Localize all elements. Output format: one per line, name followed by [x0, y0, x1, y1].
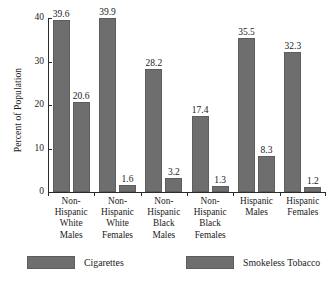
- x-axis-label-line: White: [94, 218, 140, 229]
- x-axis-label-line: Black: [141, 218, 187, 229]
- legend-swatch-icon: [27, 256, 75, 269]
- bar: 28.2: [145, 69, 162, 192]
- y-tick-label: 40: [22, 12, 44, 23]
- x-axis-label-line: Hispanic: [94, 207, 140, 218]
- plot-area: 010203040 39.620.639.91.628.23.217.41.33…: [48, 18, 326, 193]
- x-axis-label-line: Hispanic: [141, 207, 187, 218]
- x-axis-label: HispanicMales: [233, 196, 279, 218]
- bar-value-label: 8.3: [261, 145, 273, 156]
- y-tick-mark: 20: [48, 105, 52, 106]
- x-axis-label-line: Males: [141, 230, 187, 241]
- y-tick-label: 0: [22, 186, 44, 197]
- x-axis-category-labels: Non-HispanicWhiteMalesNon-HispanicWhiteF…: [48, 196, 326, 246]
- bar: 39.6: [53, 20, 70, 192]
- bar: 32.3: [284, 52, 301, 193]
- y-tick-mark: 40: [48, 18, 52, 19]
- x-axis-label-line: Hispanic: [280, 196, 326, 207]
- y-tick-label: 10: [22, 143, 44, 154]
- bar: 35.5: [238, 38, 255, 192]
- x-axis-label-line: Females: [280, 207, 326, 218]
- x-axis-label-line: Black: [187, 218, 233, 229]
- y-tick-label: 30: [22, 56, 44, 67]
- bar-value-label: 39.6: [53, 9, 70, 20]
- x-axis-label-line: Females: [94, 230, 140, 241]
- bar: 20.6: [73, 102, 90, 192]
- bar: 1.6: [119, 185, 136, 192]
- x-axis-label-line: Non-: [187, 196, 233, 207]
- x-axis-label: Non-HispanicBlackMales: [141, 196, 187, 241]
- bar: 1.3: [212, 186, 229, 192]
- y-tick-mark: 10: [48, 149, 52, 150]
- bar-value-label: 17.4: [192, 105, 209, 116]
- x-axis-label: Non-HispanicWhiteMales: [48, 196, 94, 241]
- bar-value-label: 1.3: [214, 175, 226, 186]
- x-axis-label-line: Non-: [94, 196, 140, 207]
- legend-item-smokeless-tobacco: Smokeless Tobacco: [186, 256, 320, 269]
- legend-label-smokeless-tobacco: Smokeless Tobacco: [243, 256, 320, 269]
- bar-value-label: 20.6: [73, 91, 90, 102]
- bar-value-label: 32.3: [285, 41, 302, 52]
- x-axis-label-line: Non-: [141, 196, 187, 207]
- bar: 3.2: [165, 178, 182, 192]
- bar: 1.2: [304, 187, 321, 192]
- legend-swatch-icon: [186, 256, 234, 269]
- bar-value-label: 1.6: [122, 174, 134, 185]
- y-tick-label: 20: [22, 99, 44, 110]
- bar: 39.9: [99, 18, 116, 192]
- x-axis-label-line: Hispanic: [48, 207, 94, 218]
- x-axis-label-line: Males: [48, 230, 94, 241]
- bar-value-label: 28.2: [146, 58, 163, 69]
- chart-legend: Cigarettes Smokeless Tobacco: [0, 256, 331, 278]
- x-axis-label: Non-HispanicBlackFemales: [187, 196, 233, 241]
- x-axis-label-line: Non-: [48, 196, 94, 207]
- bar-chart: Percent of Population 010203040 39.620.6…: [0, 0, 331, 286]
- x-axis-label-line: White: [48, 218, 94, 229]
- x-axis-label-line: Hispanic: [233, 196, 279, 207]
- y-tick-mark: 30: [48, 62, 52, 63]
- bar-value-label: 3.2: [168, 167, 180, 178]
- x-axis-label: Non-HispanicWhiteFemales: [94, 196, 140, 241]
- x-axis-label-line: Females: [187, 230, 233, 241]
- bar: 17.4: [192, 116, 209, 192]
- bar-value-label: 35.5: [238, 27, 255, 38]
- bar-value-label: 39.9: [99, 7, 116, 18]
- bar-value-label: 1.2: [307, 176, 319, 187]
- x-axis-label-line: Males: [233, 207, 279, 218]
- legend-item-cigarettes: Cigarettes: [27, 256, 124, 269]
- legend-label-cigarettes: Cigarettes: [84, 256, 124, 269]
- x-axis-label-line: Hispanic: [187, 207, 233, 218]
- x-axis-label: HispanicFemales: [280, 196, 326, 218]
- bar: 8.3: [258, 156, 275, 192]
